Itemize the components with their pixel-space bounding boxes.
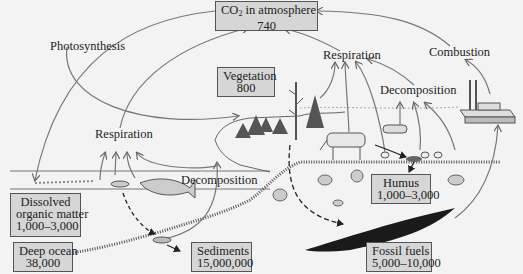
fossil-fuels-box: Fossil fuels 5,000–10,000 xyxy=(366,242,432,272)
ocean-respiration-label: Respiration xyxy=(95,128,153,141)
atmosphere-name: CO2 in atmosphere xyxy=(221,4,312,20)
plankton xyxy=(35,181,95,183)
photosynthesis-to-vegetation-arrow xyxy=(67,47,238,119)
atmosphere-value: 740 xyxy=(221,20,312,32)
humus-to-decomposition-arrow xyxy=(414,103,421,150)
fish-to-respiration-arrow-2 xyxy=(127,153,135,178)
photosynthesis-label: Photosynthesis xyxy=(50,40,125,53)
fish-to-sediment-arrow xyxy=(123,193,155,234)
fossil-fuel-to-factory-arrow xyxy=(455,126,498,218)
cow-to-humus-arrow xyxy=(375,145,406,157)
mushroom-to-decomposition-arrow xyxy=(425,103,455,150)
combustion-label: Combustion xyxy=(429,46,490,59)
dissolved-value: 1,000–3,000 xyxy=(16,220,75,232)
decomposition-to-ocean-respiration-arrow xyxy=(137,153,218,168)
tree-to-respiration-arrow xyxy=(320,63,335,98)
carbon-cycle-diagram: Photosynthesis Respiration Respiration C… xyxy=(0,0,523,274)
sediments-value: 15,000,000 xyxy=(197,257,246,269)
plankton-to-respiration-arrow xyxy=(100,153,105,180)
cow-to-respiration-arrow xyxy=(345,63,349,132)
atmosphere-box: CO2 in atmosphere 740 xyxy=(215,1,318,31)
vegetation-to-fossil-fuel-arrow xyxy=(289,145,343,224)
humus-value: 1,000–3,000 xyxy=(377,189,425,201)
vegetation-value: 800 xyxy=(223,82,269,94)
fish-to-respiration-arrow-1 xyxy=(115,153,116,175)
sediments-box: Sediments 15,000,000 xyxy=(191,242,252,272)
log xyxy=(383,125,407,133)
sediment-down-arrow xyxy=(167,245,180,251)
vegetation-box: Vegetation 800 xyxy=(217,67,275,97)
land-decomposition-label: Decomposition xyxy=(380,84,456,97)
humus-box: Humus 1,000–3,000 xyxy=(371,174,431,204)
cow xyxy=(320,133,365,160)
humus-clump xyxy=(406,156,422,162)
deep-ocean-value: 38,000 xyxy=(19,257,67,269)
fossil-fuels-value: 5,000–10,000 xyxy=(372,257,426,269)
photosynthesis-to-ocean-arrow xyxy=(35,11,215,180)
seafloor xyxy=(55,162,500,255)
dissolved-organic-matter-box: Dissolved organic matter 1,000–3,000 xyxy=(10,193,81,237)
deep-ocean-box: Deep ocean 38,000 xyxy=(13,242,73,272)
combustion-to-atmosphere-arrow xyxy=(317,11,450,46)
land-respiration-label: Respiration xyxy=(323,49,381,62)
ocean-decomposition-label: Decomposition xyxy=(181,174,257,187)
land-surface-line xyxy=(300,107,460,108)
decomposition-to-respiration-arrow xyxy=(368,59,414,85)
